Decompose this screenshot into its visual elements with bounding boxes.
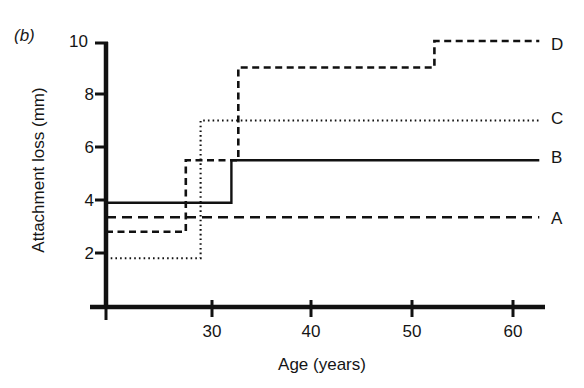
y-tick-label-8: 8	[60, 85, 94, 105]
series-label-C: C	[551, 109, 573, 129]
x-tick-label-50: 50	[392, 322, 432, 342]
y-tick-label-6: 6	[60, 138, 94, 158]
y-tick-label-4: 4	[60, 191, 94, 211]
series-label-B: B	[551, 148, 573, 168]
x-tick-label-60: 60	[493, 322, 533, 342]
series-label-D: D	[551, 35, 573, 55]
series-line-B	[106, 160, 539, 202]
figure-panel-b: (b) Attachment loss (mm) Age (years) 2 4…	[0, 0, 584, 388]
y-tick-label-2: 2	[60, 244, 94, 264]
series-line-C	[106, 121, 539, 259]
x-axis-title: Age (years)	[232, 355, 412, 375]
y-axis-title: Attachment loss (mm)	[29, 55, 49, 285]
panel-label: (b)	[14, 26, 35, 46]
x-tick-label-40: 40	[291, 322, 331, 342]
y-tick-label-10: 10	[54, 32, 88, 52]
series-label-A: A	[551, 209, 573, 229]
x-tick-label-30: 30	[192, 322, 232, 342]
